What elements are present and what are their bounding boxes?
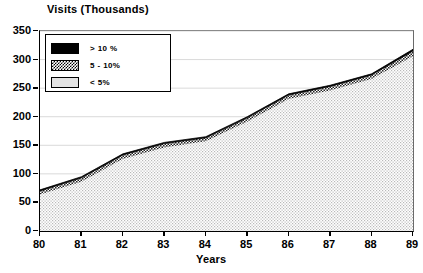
y-tickmark (33, 230, 38, 231)
x-tick-label: 86 (276, 239, 300, 250)
legend-swatch-5to10 (51, 60, 79, 71)
x-tickmark (288, 231, 289, 236)
y-tickmark (33, 30, 38, 31)
y-tickmark (33, 173, 38, 174)
legend-swatch-gt10 (51, 43, 79, 54)
y-tick-label: 350 (5, 25, 31, 35)
legend-label: < 5% (90, 78, 110, 87)
x-tickmark (39, 231, 40, 236)
x-tick-label: 85 (234, 239, 258, 250)
x-tickmark (163, 231, 164, 236)
y-axis-title: Visits (Thousands) (47, 3, 149, 15)
x-tickmark (246, 231, 247, 236)
x-tickmark (80, 231, 81, 236)
y-tick-label: 0 (5, 225, 31, 235)
x-axis-title: Years (196, 253, 226, 265)
chart-legend: > 10 %5 - 10%< 5% (45, 34, 171, 92)
y-axis-tick-labels: 050100150200250300350 (0, 0, 31, 273)
x-tick-label: 80 (27, 239, 51, 250)
y-tick-label: 300 (5, 54, 31, 64)
x-tick-label: 82 (110, 239, 134, 250)
legend-item: 5 - 10% (51, 57, 165, 73)
chart-figure: Visits (Thousands) 050100150200250300350 (0, 0, 423, 273)
x-tick-label: 88 (359, 239, 383, 250)
y-tick-label: 100 (5, 168, 31, 178)
x-tick-label: 87 (317, 239, 341, 250)
y-tick-label: 50 (5, 196, 31, 206)
y-tickmark (33, 87, 38, 88)
x-axis-tick-labels: 80818283848586878889 (0, 239, 423, 253)
x-tickmark (205, 231, 206, 236)
x-tickmark (371, 231, 372, 236)
legend-item: > 10 % (51, 40, 165, 56)
legend-item: < 5% (51, 74, 165, 90)
y-tickmark (33, 144, 38, 145)
x-tickmark (329, 231, 330, 236)
x-tick-label: 83 (151, 239, 175, 250)
legend-label: 5 - 10% (90, 61, 120, 70)
y-tick-label: 150 (5, 139, 31, 149)
x-tickmark (122, 231, 123, 236)
x-tick-label: 84 (193, 239, 217, 250)
y-tickmark (33, 59, 38, 60)
x-tick-label: 81 (68, 239, 92, 250)
y-tickmark (33, 201, 38, 202)
y-tick-label: 200 (5, 111, 31, 121)
x-tickmark (412, 231, 413, 236)
y-tick-label: 250 (5, 82, 31, 92)
x-tick-label: 89 (400, 239, 423, 250)
y-tickmark (33, 116, 38, 117)
legend-swatch-lt5 (51, 77, 79, 88)
legend-label: > 10 % (90, 44, 118, 53)
